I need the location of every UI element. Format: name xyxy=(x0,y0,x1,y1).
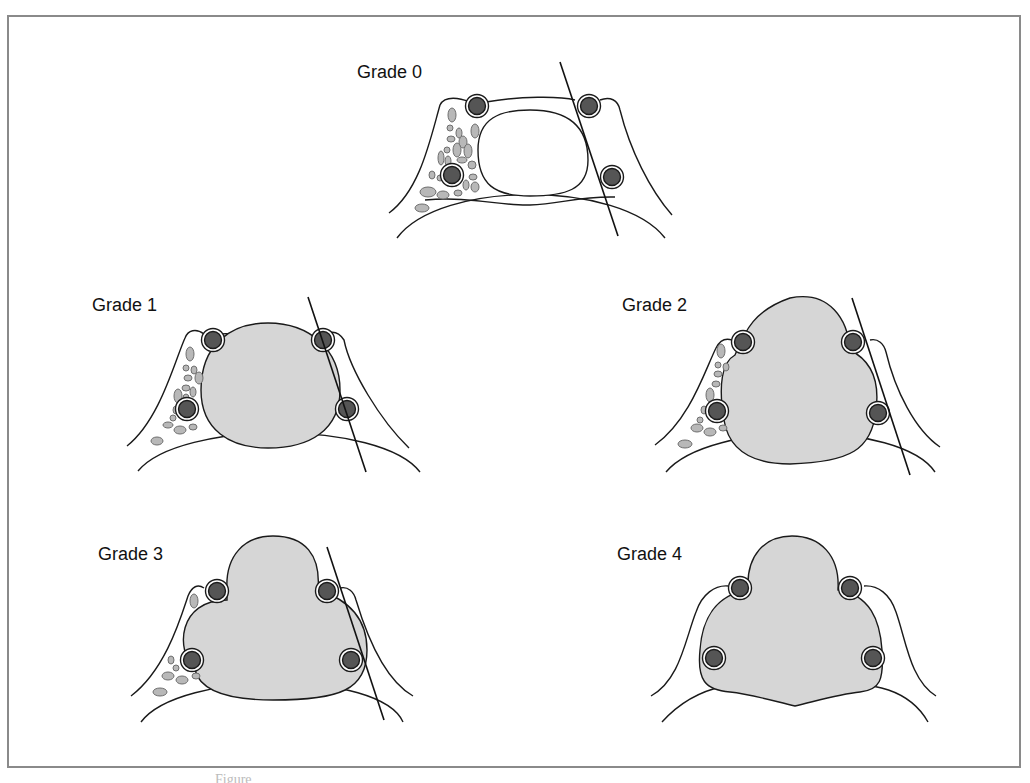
grade-3-panel xyxy=(131,536,413,722)
knosp-grading-diagram xyxy=(0,0,1030,783)
grade-3-label: Grade 3 xyxy=(98,544,163,565)
grade-0-label: Grade 0 xyxy=(357,62,422,83)
fat-tissue-icon xyxy=(415,108,479,212)
carotid-artery-icon xyxy=(466,95,489,118)
fat-tissue-icon xyxy=(151,347,203,445)
carotid-artery-icon xyxy=(601,166,624,189)
grade-1-label: Grade 1 xyxy=(92,295,157,316)
grade-4-panel xyxy=(651,536,936,722)
carotid-artery-icon xyxy=(441,164,464,187)
carotid-artery-icon xyxy=(578,95,601,118)
grade-2-label: Grade 2 xyxy=(622,295,687,316)
figure-caption: Figure xyxy=(215,772,252,783)
grade-2-panel xyxy=(655,297,940,475)
grade-0-panel xyxy=(389,62,672,238)
grade-4-label: Grade 4 xyxy=(617,544,682,565)
grade-1-panel xyxy=(127,297,420,472)
